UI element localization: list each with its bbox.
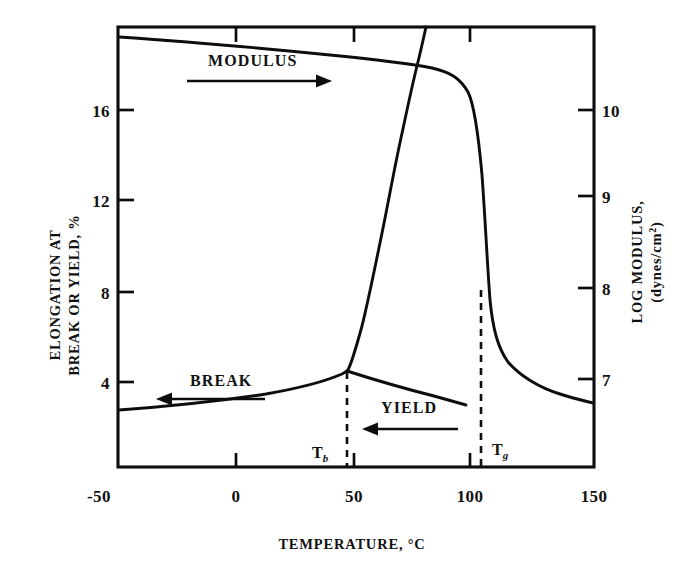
y-left-axis-ticks xyxy=(118,110,134,382)
y-left-axis-title-line2: BREAK OR YIELD, % xyxy=(66,214,82,375)
y-right-axis-title: LOG MODULUS, (dynes/cm2) xyxy=(629,200,665,323)
y-left-tick-label-16: 16 xyxy=(92,102,110,121)
y-right-axis-ticks xyxy=(578,110,594,379)
y-left-tick-label-8: 8 xyxy=(101,284,110,303)
y-left-tick-label-12: 12 xyxy=(92,192,110,211)
x-axis-ticks xyxy=(236,453,470,467)
yield-arrow-icon xyxy=(362,423,458,436)
figure-container: -50 0 50 100 150 16 12 8 4 10 9 8 7 ELON… xyxy=(0,0,699,581)
y-right-tick-label-7: 7 xyxy=(602,371,611,390)
polymer-elongation-modulus-chart: -50 0 50 100 150 16 12 8 4 10 9 8 7 ELON… xyxy=(0,0,699,581)
break-arrow-icon xyxy=(156,393,265,406)
y-right-tick-label-8: 8 xyxy=(602,280,611,299)
x-axis-title: TEMPERATURE, °C xyxy=(278,536,425,552)
x-tick-label-50: 50 xyxy=(345,487,363,506)
tb-label: Tb xyxy=(312,444,329,464)
y-right-tick-label-9: 9 xyxy=(602,188,611,207)
tg-label: Tg xyxy=(492,441,509,461)
modulus-arrow-icon xyxy=(187,75,332,88)
y-right-axis-title-line1: LOG MODULUS, xyxy=(629,200,645,323)
top-axis-ticks xyxy=(236,27,470,42)
modulus-label: MODULUS xyxy=(208,52,297,69)
break-curve xyxy=(119,27,426,410)
x-tick-label-minus50: -50 xyxy=(87,487,111,506)
plot-frame xyxy=(118,27,594,467)
y-right-tick-label-10: 10 xyxy=(602,102,620,121)
yield-label: YIELD xyxy=(381,399,437,416)
y-left-axis-title-line1: ELONGATION AT xyxy=(47,229,63,360)
y-left-axis-title: ELONGATION AT BREAK OR YIELD, % xyxy=(47,214,82,375)
x-tick-label-100: 100 xyxy=(457,487,484,506)
y-right-axis-title-line2: (dynes/cm2) xyxy=(647,221,665,302)
y-left-tick-label-4: 4 xyxy=(101,374,110,393)
x-tick-label-150: 150 xyxy=(581,487,608,506)
x-tick-label-0: 0 xyxy=(232,487,241,506)
break-label: BREAK xyxy=(190,372,252,389)
